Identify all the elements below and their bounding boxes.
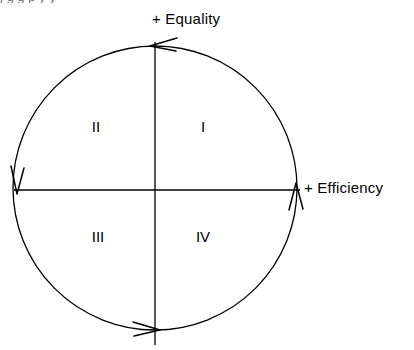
axis-label-efficiency: + Efficiency — [304, 179, 383, 196]
quadrant-label-iii: III — [83, 228, 113, 245]
quadrant-label-i: I — [190, 118, 216, 135]
quadrant-label-iv: IV — [188, 228, 218, 245]
quadrant-label-ii: II — [83, 118, 109, 135]
cycle-arrow-top — [150, 38, 177, 51]
diagram-canvas: j g g p y y + Equality + Efficiency — [0, 0, 414, 350]
axis-label-equality: + Equality — [152, 10, 220, 27]
quadrant-cycle-figure — [0, 0, 414, 350]
